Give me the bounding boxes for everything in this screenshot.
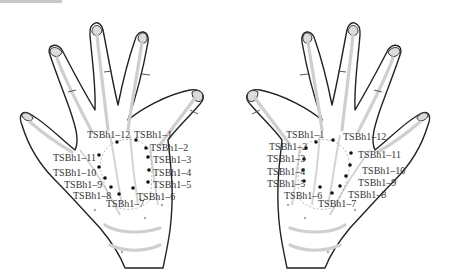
right-label-tsbh1-10: TSBh1–10 xyxy=(362,166,405,176)
right-label-tsbh1-9: TSBh1–9 xyxy=(358,178,396,188)
left-label-tsbh1-3: TSBh1–3 xyxy=(153,155,191,165)
left-label-tsbh1-11: TSBh1–11 xyxy=(53,153,96,163)
right-label-tsbh1-2: TSBh1–2 xyxy=(269,142,307,152)
right-label-tsbh1-12: TSBh1–12 xyxy=(343,132,386,142)
right-label-tsbh1-7: TSBh1–7 xyxy=(318,199,356,209)
left-label-tsbh1-2: TSBh1–2 xyxy=(150,143,188,153)
right-label-tsbh1-11: TSBh1–11 xyxy=(358,150,401,160)
left-label-tsbh1-5: TSBh1–5 xyxy=(153,180,191,190)
right-label-tsbh1-8: TSBh1–8 xyxy=(348,190,386,200)
right-label-tsbh1-3: TSBh1–3 xyxy=(267,154,305,164)
left-label-tsbh1-7: TSBh1–7 xyxy=(106,199,144,209)
left-label-tsbh1-8: TSBh1–8 xyxy=(73,191,111,201)
left-label-tsbh1-9: TSBh1–9 xyxy=(64,180,102,190)
right-label-tsbh1-4: TSBh1–4 xyxy=(267,167,305,177)
left-label-tsbh1-10: TSBh1–10 xyxy=(53,168,96,178)
left-label-tsbh1-1: TSBh1–1 xyxy=(134,130,172,140)
right-label-tsbh1-6: TSBh1–6 xyxy=(284,191,322,201)
right-label-tsbh1-5: TSBh1–5 xyxy=(267,179,305,189)
left-label-tsbh1-4: TSBh1–4 xyxy=(153,168,191,178)
left-label-tsbh1-12: TSBh1–12 xyxy=(87,130,130,140)
right-label-tsbh1-1: TSBh1–1 xyxy=(286,130,324,140)
